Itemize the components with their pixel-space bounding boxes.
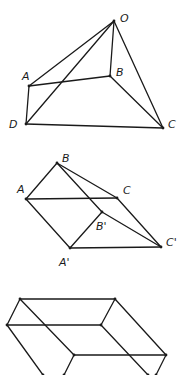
edge-P4-P10 bbox=[101, 325, 148, 375]
pyramid-figure: OABDC bbox=[9, 12, 176, 131]
vertex-B bbox=[56, 162, 59, 165]
vertex-label: A bbox=[21, 70, 30, 83]
edge-P5-P7 bbox=[64, 355, 74, 375]
edge-B-C bbox=[110, 76, 163, 128]
vertex-P3 bbox=[6, 324, 9, 327]
vertex-label: C bbox=[123, 184, 131, 197]
edge-P2-P4 bbox=[101, 299, 115, 325]
edge-A-C bbox=[26, 198, 117, 199]
vertex-C bbox=[162, 127, 165, 130]
vertex-P4 bbox=[100, 324, 103, 327]
vertex-label: B bbox=[116, 66, 124, 79]
vertex-label: A' bbox=[58, 256, 70, 269]
vertex-P1 bbox=[19, 298, 22, 301]
vertex-P2 bbox=[114, 298, 117, 301]
edge-A-D bbox=[26, 86, 29, 124]
edge-B-A bbox=[26, 163, 57, 199]
vertex-D bbox=[25, 123, 28, 126]
box-figure bbox=[6, 298, 168, 375]
vertex-label: C' bbox=[166, 236, 177, 249]
vertex-A bbox=[28, 85, 31, 88]
vertex-B bbox=[109, 75, 112, 78]
edge-B-B' bbox=[57, 163, 102, 212]
vertex-O bbox=[113, 20, 116, 23]
edge-P1-P3 bbox=[7, 299, 20, 325]
vertex-label: A bbox=[16, 183, 25, 196]
vertex-P6 bbox=[165, 354, 168, 357]
prism-figure: BACB'A'C' bbox=[16, 152, 177, 269]
vertex-label: D bbox=[9, 118, 17, 131]
vertex-B' bbox=[101, 211, 104, 214]
edge-P1-P5 bbox=[20, 299, 74, 355]
vertex-label: B bbox=[62, 152, 70, 165]
edge-A-A' bbox=[26, 199, 70, 248]
edge-B-C bbox=[57, 163, 117, 198]
edge-P6-P8 bbox=[156, 355, 166, 375]
vertex-P5 bbox=[73, 354, 76, 357]
edge-O-A bbox=[29, 21, 114, 86]
vertex-label: B' bbox=[96, 220, 107, 233]
edge-O-D bbox=[26, 21, 114, 124]
vertex-A bbox=[25, 198, 28, 201]
edge-O-B bbox=[110, 21, 114, 76]
geometry-diagrams: OABDC BACB'A'C' bbox=[0, 0, 184, 375]
edge-A'-C' bbox=[70, 247, 161, 248]
vertex-A' bbox=[69, 247, 72, 250]
edge-C-C' bbox=[117, 198, 161, 247]
edge-D-C bbox=[26, 124, 163, 128]
edge-B'-C' bbox=[102, 212, 161, 247]
edge-P3-P9 bbox=[7, 325, 43, 375]
vertex-C' bbox=[160, 246, 163, 249]
vertex-label: O bbox=[120, 12, 129, 25]
vertex-C bbox=[116, 197, 119, 200]
edge-P2-P6 bbox=[115, 299, 166, 355]
vertex-label: C bbox=[168, 118, 176, 131]
